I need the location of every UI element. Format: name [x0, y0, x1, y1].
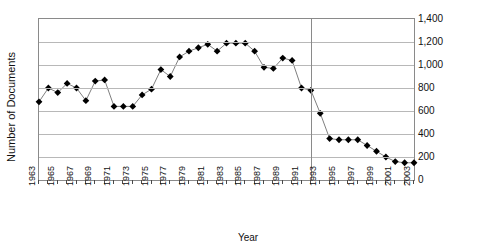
- x-axis-tick-mark: [113, 180, 114, 184]
- x-axis-tick-label: 1985: [233, 166, 243, 186]
- x-axis-title: Year: [0, 232, 496, 243]
- x-axis-tick-mark: [244, 180, 245, 184]
- x-axis-tick-label: 1967: [65, 166, 75, 186]
- x-axis-tick-label: 1991: [290, 166, 300, 186]
- x-axis-tick-mark: [338, 180, 339, 184]
- x-axis-tick-label: 1997: [346, 166, 356, 186]
- y-axis-tick-label: 800: [418, 82, 435, 93]
- x-axis-tick-label: 1965: [46, 166, 56, 186]
- gridline: [39, 42, 414, 43]
- x-axis-tick-mark: [226, 180, 227, 184]
- x-axis-tick-mark: [57, 180, 58, 184]
- x-axis-tick-mark: [94, 180, 95, 184]
- x-axis-tick-label: 1987: [252, 166, 262, 186]
- x-axis-tick-label: 1983: [215, 166, 225, 186]
- gridline: [39, 111, 414, 112]
- x-axis-tick-mark: [169, 180, 170, 184]
- x-axis-tick-label: 1989: [271, 166, 281, 186]
- x-axis-tick-label: 1969: [83, 166, 93, 186]
- reference-line: [311, 19, 312, 180]
- x-axis-tick-label: 2003: [402, 166, 412, 186]
- x-axis-tick-label: 1973: [121, 166, 131, 186]
- x-axis-tick-mark: [188, 180, 189, 184]
- data-point-marker: [176, 54, 183, 61]
- x-axis-tick-mark: [413, 180, 414, 184]
- y-axis-tick-label: 1,000: [418, 59, 443, 70]
- line-series: [39, 19, 414, 180]
- data-point-marker: [373, 148, 380, 155]
- plot-area: [38, 18, 415, 181]
- data-point-marker: [345, 136, 352, 143]
- x-axis-tick-mark: [394, 180, 395, 184]
- x-axis-tick-mark: [263, 180, 264, 184]
- data-point-marker: [92, 78, 99, 85]
- x-axis-tick-label: 1999: [365, 166, 375, 186]
- x-axis-tick-mark: [357, 180, 358, 184]
- y-axis-tick-label: 1,200: [418, 36, 443, 47]
- data-point-marker: [326, 135, 333, 142]
- x-axis-tick-mark: [76, 180, 77, 184]
- data-point-marker: [364, 142, 371, 149]
- y-axis-title: Number of Documents: [2, 32, 20, 182]
- data-point-marker: [167, 73, 174, 80]
- y-axis-tick-label: 0: [418, 174, 424, 185]
- x-axis-tick-label: 1979: [177, 166, 187, 186]
- gridline: [39, 88, 414, 89]
- gridline: [39, 134, 414, 135]
- y-axis-tick-label: 1,400: [418, 13, 443, 24]
- data-point-marker: [157, 66, 164, 73]
- data-point-marker: [148, 86, 155, 93]
- series-line: [39, 43, 414, 163]
- data-point-marker: [392, 158, 399, 165]
- data-point-marker: [232, 40, 239, 47]
- x-axis-tick-label: 1971: [102, 166, 112, 186]
- chart-figure: Number of Documents 02004006008001,0001,…: [0, 0, 496, 252]
- x-axis-tick-mark: [38, 180, 39, 184]
- x-axis-tick-mark: [132, 180, 133, 184]
- x-axis-tick-label: 1993: [308, 166, 318, 186]
- x-axis-tick-label: 1995: [327, 166, 337, 186]
- x-axis-tick-mark: [151, 180, 152, 184]
- data-point-marker: [120, 103, 127, 110]
- data-point-marker: [111, 103, 118, 110]
- y-axis-tick-label: 200: [418, 151, 435, 162]
- x-axis-tick-label: 1975: [140, 166, 150, 186]
- y-axis-tick-label: 600: [418, 105, 435, 116]
- data-point-marker: [195, 44, 202, 51]
- x-axis-tick-mark: [207, 180, 208, 184]
- data-point-marker: [186, 48, 193, 55]
- y-axis-tick-label: 400: [418, 128, 435, 139]
- data-point-marker: [336, 136, 343, 143]
- x-axis-tick-label: 1981: [196, 166, 206, 186]
- x-axis-tick-label: 1977: [158, 166, 168, 186]
- x-axis-tick-mark: [282, 180, 283, 184]
- x-axis-tick-mark: [319, 180, 320, 184]
- x-axis-tick-label: 2001: [383, 166, 393, 186]
- x-axis-tick-label: 1963: [27, 166, 37, 186]
- x-axis-tick-mark: [376, 180, 377, 184]
- data-point-marker: [289, 57, 296, 64]
- data-point-marker: [101, 77, 108, 84]
- x-axis-tick-mark: [301, 180, 302, 184]
- gridline: [39, 157, 414, 158]
- data-point-marker: [36, 98, 43, 105]
- data-point-marker: [354, 136, 361, 143]
- gridline: [39, 65, 414, 66]
